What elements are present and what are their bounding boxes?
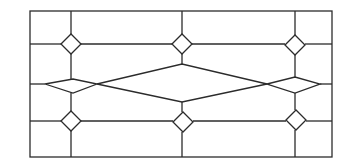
middle-band-diamonds — [45, 64, 320, 102]
vertical-lead-lines — [71, 11, 295, 157]
diamond-pane-top-center — [172, 34, 192, 54]
diamond-pane-top-left — [61, 34, 81, 54]
horizontal-lead-lines — [30, 44, 332, 121]
middle-center-diamond — [97, 64, 267, 102]
middle-left-diamond — [45, 79, 97, 93]
outer-frame — [30, 11, 332, 157]
middle-right-diamond — [267, 77, 320, 93]
diamond-pane-bottom-left — [61, 111, 81, 131]
diagram-svg — [0, 0, 352, 165]
leaded-glass-diagram — [0, 0, 352, 165]
diamond-pane-bottom-right — [286, 110, 306, 130]
diamond-pane-bottom-center — [173, 112, 193, 132]
diamond-pane-top-right — [285, 35, 305, 55]
